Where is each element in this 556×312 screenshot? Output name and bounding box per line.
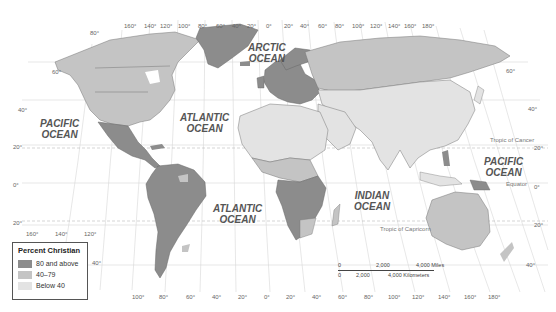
atlantic-ocean-north-label: ATLANTICOCEAN (180, 112, 229, 134)
lat-label: 80° (90, 30, 99, 36)
top-lon-label: 80° (198, 23, 207, 29)
lat-label: 0° (13, 182, 19, 188)
lat-label-right: 20° (534, 222, 543, 228)
top-lon-label: 40° (232, 23, 241, 29)
top-lon-label: 100° (178, 23, 190, 29)
lon-label: 160° (26, 231, 38, 237)
bottom-lon-label: 0° (264, 294, 270, 300)
lat-label-right: 40° (528, 106, 537, 112)
arctic-ocean-label: ARCTICOCEAN (248, 42, 286, 64)
lat-label-right: 0° (534, 184, 540, 190)
top-lon-label: 20° (284, 23, 293, 29)
top-lon-label: 160° (124, 23, 136, 29)
bottom-lon-label: 140° (438, 294, 450, 300)
top-lon-label: 60° (318, 23, 327, 29)
top-lon-label: 0° (266, 23, 272, 29)
bottom-lon-label: 80° (159, 294, 168, 300)
lon-label: 120° (84, 231, 96, 237)
legend-swatch-high (18, 260, 32, 268)
tropic-of-cancer-label: Tropic of Cancer (490, 137, 534, 143)
legend: Percent Christian 80 and above 40–79 Bel… (12, 242, 88, 300)
scale-bar: 0 2,000 4,000 Miles 0 2,000 4,000 Kilome… (338, 262, 438, 284)
top-lon-label: 20° (247, 23, 256, 29)
bottom-lon-label: 80° (364, 294, 373, 300)
australia (426, 192, 490, 250)
bottom-lon-label: 160° (464, 294, 476, 300)
bottom-lon-label: 100° (388, 294, 400, 300)
lat-label: 40° (18, 107, 27, 113)
top-lon-label: 60° (216, 23, 225, 29)
top-lon-label: 160° (404, 23, 416, 29)
lon-label: 140° (55, 231, 67, 237)
bottom-lon-label: 180° (488, 294, 500, 300)
legend-title: Percent Christian (18, 246, 82, 255)
bottom-lon-label: 60° (186, 294, 195, 300)
lat-label: 60° (52, 69, 61, 75)
atlantic-ocean-south-label: ATLANTICOCEAN (213, 203, 262, 225)
lat-label-right: 40° (526, 262, 535, 268)
top-lon-label: 120° (160, 23, 172, 29)
top-lon-label: 140° (144, 23, 156, 29)
legend-item-low: Below 40 (18, 280, 82, 291)
legend-item-high: 80 and above (18, 258, 82, 269)
bottom-lon-label: 20° (238, 294, 247, 300)
top-lon-label: 80° (335, 23, 344, 29)
lat-label-right: 20° (534, 145, 543, 151)
bottom-lon-label: 20° (286, 294, 295, 300)
top-lon-label: 120° (370, 23, 382, 29)
bottom-lon-label: 100° (132, 294, 144, 300)
indian-ocean-label: INDIANOCEAN (354, 190, 390, 212)
top-lon-label: 100° (352, 23, 364, 29)
lat-label: 40° (92, 260, 101, 266)
bottom-lon-label: 40° (312, 294, 321, 300)
tropic-of-capricorn-label: Tropic of Capricorn (380, 226, 431, 232)
legend-swatch-mid (18, 271, 32, 279)
legend-item-mid: 40–79 (18, 269, 82, 280)
top-lon-label: 140° (388, 23, 400, 29)
pacific-ocean-east-label: PACIFICOCEAN (484, 156, 523, 178)
lat-label: 20° (13, 220, 22, 226)
legend-swatch-low (18, 282, 32, 290)
lat-label: 20° (13, 144, 22, 150)
scale-line (338, 270, 434, 271)
bottom-lon-label: 60° (338, 294, 347, 300)
north-america (55, 32, 200, 126)
equator-label: Equator (506, 181, 527, 187)
top-lon-label: 180° (422, 23, 434, 29)
bottom-lon-label: 40° (212, 294, 221, 300)
pacific-ocean-west-label: PACIFICOCEAN (40, 118, 79, 140)
africa-north (238, 104, 328, 162)
bottom-lon-label: 120° (412, 294, 424, 300)
lat-label-right: 60° (506, 68, 515, 74)
top-lon-label: 40° (300, 23, 309, 29)
